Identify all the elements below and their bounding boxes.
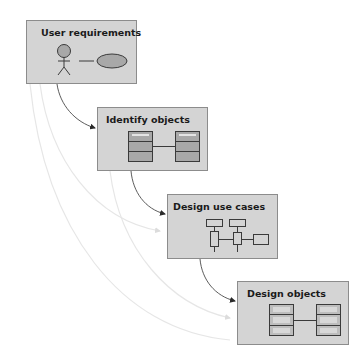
step-user-requirements: User requirements [27, 21, 142, 84]
connector-step2-to-step3 [131, 171, 165, 214]
step-title: Identify objects [106, 114, 190, 125]
connector-step3-to-step4 [200, 259, 235, 301]
step-title: Design objects [247, 288, 326, 299]
connector-step1-to-step2 [57, 84, 95, 128]
step-title: Design use cases [173, 201, 265, 212]
step-design-objects: Design objects [238, 282, 349, 345]
step-design-use-cases: Design use cases [168, 195, 278, 259]
step-identify-objects: Identify objects [98, 108, 208, 171]
process-diagram: User requirements Identify objects [0, 0, 363, 363]
step-title: User requirements [41, 27, 142, 38]
